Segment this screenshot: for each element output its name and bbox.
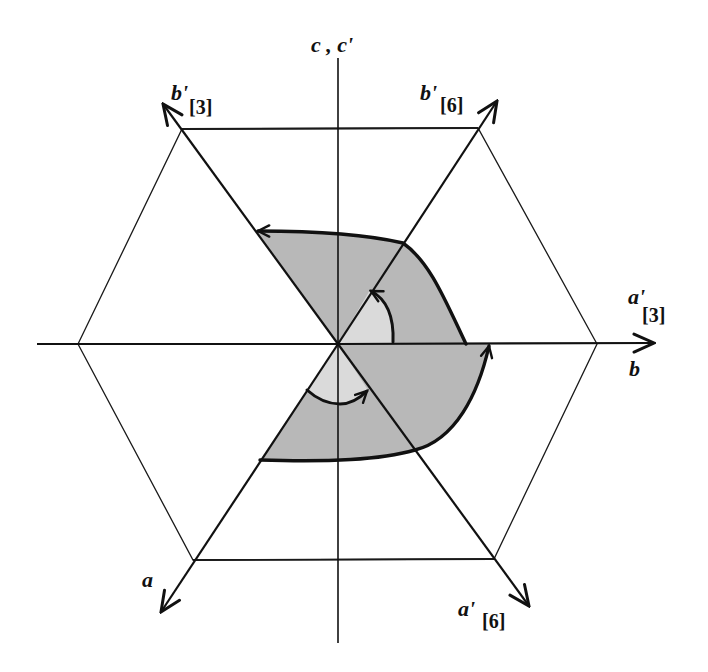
a-axis [161, 344, 338, 612]
c-axis-label: c , c' [311, 32, 353, 57]
b-axis-label: b [629, 356, 640, 381]
b-prime-3-label-main: b' [171, 80, 188, 105]
shaded-regions [256, 231, 490, 461]
b-prime-6-label-main: b' [420, 80, 437, 105]
a-prime-6-label-main: a' [458, 596, 475, 621]
a-prime-6-label-sub: [6] [482, 610, 505, 632]
a-prime-3-label-sub: [3] [642, 304, 665, 326]
crystal-axes-diagram: c , c' b' [3] b' [6] a' [3] b a a' [6] [0, 0, 708, 672]
b-prime-3-axis [163, 104, 338, 344]
b-prime-6-label-sub: [6] [440, 94, 463, 116]
b-prime-3-label-sub: [3] [189, 96, 212, 118]
a-axis-label: a [142, 567, 153, 592]
b-axis-line [338, 343, 654, 344]
lower-shaded-region [260, 344, 490, 461]
